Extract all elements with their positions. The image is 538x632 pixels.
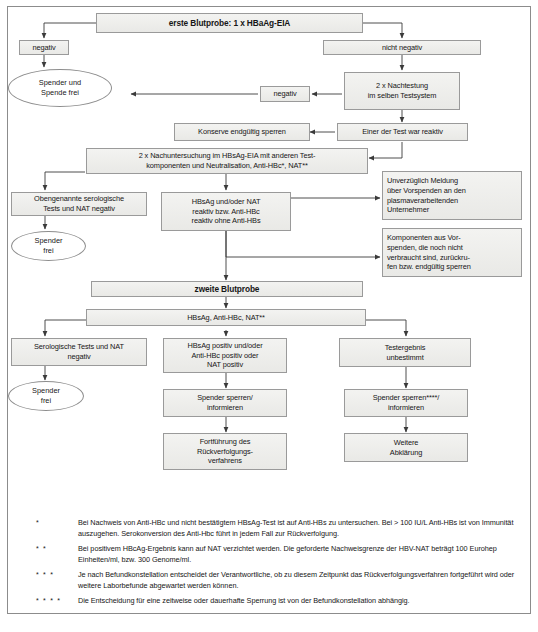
node-negativ-first[interactable]: negativ [19, 40, 69, 55]
node-hbsag-or-nat-reactive[interactable]: HBsAg und/oder NAT reaktiv bzw. Anti-HBc… [161, 192, 291, 231]
footnote-item: * * * * Die Entscheidung für eine zeitwe… [36, 596, 524, 607]
node-block-preserve-permanently[interactable]: Konserve endgültig sperren [174, 123, 310, 141]
node-tests-row[interactable]: HBsAg, Anti-HBc, NAT** [86, 309, 366, 326]
node-nicht-negativ[interactable]: nicht negativ [323, 40, 481, 55]
node-serological-tests-nat-negative[interactable]: Serologische Tests und NAT negativ [11, 338, 147, 366]
node-further-clarification[interactable]: Weitere Abklärung [344, 433, 468, 462]
footnote-marker: * [36, 518, 78, 539]
node-continue-lookback-procedure[interactable]: Fortführung des Rückverfolgungs- verfahr… [163, 433, 287, 470]
node-hbsag-positive[interactable]: HBsAg positiv und/oder Anti-HBc positiv … [163, 338, 287, 373]
footnote-marker: * * * * [36, 596, 78, 607]
node-test-result-indeterminate[interactable]: Testergebnis unbestimmt [339, 338, 471, 367]
footnote-list: * Bei Nachweis von Anti-HBc und nicht be… [36, 518, 524, 612]
footnote-marker: * * * [36, 570, 78, 591]
node-immediate-report-to-manufacturer[interactable]: Unverzüglich Meldung über Vorspenden an … [382, 171, 522, 220]
footnote-item: * * Bei positivem HBcAg-Ergebnis kann au… [36, 544, 524, 565]
footnote-text: Bei Nachweis von Anti-HBc und nicht best… [78, 518, 524, 539]
node-second-blood-sample[interactable]: zweite Blutprobe [91, 281, 363, 297]
node-retest-same-system[interactable]: 2 x Nachtestung im selben Testsystem [344, 72, 460, 110]
node-recall-components-from-prior-donations[interactable]: Komponenten aus Vor- spenden, die noch n… [382, 228, 522, 277]
node-block-inform-donor-1[interactable]: Spender sperren/ informieren [163, 389, 287, 417]
footnote-text: Je nach Befundkonstellation entscheidet … [78, 570, 524, 591]
node-negativ-second[interactable]: negativ [260, 86, 310, 102]
node-block-inform-donor-2[interactable]: Spender sperren****/ informieren [344, 389, 468, 417]
footnote-marker: * * [36, 544, 78, 565]
diagram-root: erste Blutprobe: 1 x HBaAg-EIA negativ n… [0, 0, 538, 632]
node-donor-free-2[interactable]: Spender frei [8, 381, 84, 411]
footnote-text: Die Entscheidung für eine zeitweise oder… [78, 596, 524, 607]
footnote-item: * Bei Nachweis von Anti-HBc und nicht be… [36, 518, 524, 539]
node-above-serological-tests-negative[interactable]: Obengenannte serologische Tests und NAT … [11, 192, 147, 216]
footnote-text: Bei positivem HBcAg-Ergebnis kann auf NA… [78, 544, 524, 565]
node-reexamination-hbsag-eia[interactable]: 2 x Nachuntersuchung im HBsAg-EIA mit an… [86, 148, 368, 174]
node-donor-and-donation-free[interactable]: Spender und Spende frei [8, 69, 112, 107]
node-first-blood-sample[interactable]: erste Blutprobe: 1 x HBaAg-EIA [96, 13, 363, 33]
footnote-item: * * * Je nach Befundkonstellation entsch… [36, 570, 524, 591]
node-donor-free-1[interactable]: Spender frei [11, 231, 86, 261]
node-one-test-reactive[interactable]: Einer der Test war reaktiv [337, 123, 468, 141]
